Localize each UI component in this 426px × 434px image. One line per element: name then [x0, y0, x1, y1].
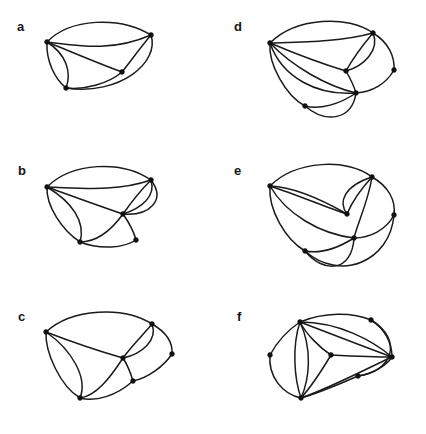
vertex-v1 — [298, 320, 303, 325]
vertex-v4 — [170, 352, 175, 357]
edge-v2-v7 — [358, 320, 390, 376]
panel-e-vertices — [268, 175, 397, 254]
panel-e — [213, 145, 426, 290]
edge-v3-v5 — [346, 71, 356, 93]
edge-v3-v4 — [80, 214, 123, 242]
vertex-v4 — [78, 240, 83, 245]
vertex-v4 — [64, 86, 69, 91]
graph-figure: a b c d e f — [0, 0, 426, 434]
vertex-v2 — [370, 175, 375, 180]
edge-v1-v3 — [270, 43, 346, 71]
edge-v1-v3 — [47, 187, 123, 214]
panel-b-graph — [0, 145, 213, 290]
panel-c-graph — [0, 290, 213, 434]
panel-label-f: f — [237, 310, 241, 323]
vertex-v5 — [131, 379, 136, 384]
vertex-v3 — [120, 70, 125, 75]
edge-v2-v3 — [346, 33, 375, 71]
edge-v2-v4 — [373, 33, 394, 70]
panel-c-vertices — [44, 322, 175, 401]
panel-b — [0, 145, 213, 290]
edge-v4-v5 — [331, 355, 392, 357]
vertex-v7 — [356, 374, 361, 379]
edge-v3-v5 — [123, 358, 133, 381]
panel-c — [0, 290, 213, 434]
vertex-v5 — [134, 238, 139, 243]
edge-v1-v2 — [270, 33, 373, 43]
panel-d — [213, 0, 426, 145]
vertex-v2 — [149, 178, 154, 183]
vertex-v2 — [150, 322, 155, 327]
panel-d-edges — [270, 21, 394, 117]
edge-v1-v4 — [47, 187, 81, 242]
edge-v1-v3 — [270, 186, 347, 214]
vertex-v4 — [392, 68, 397, 73]
vertex-v6 — [303, 104, 308, 109]
edge-v1-v6 — [270, 186, 305, 251]
vertex-v5 — [352, 236, 357, 241]
vertex-v6 — [299, 396, 304, 401]
vertex-v5 — [390, 355, 395, 360]
edge-v1-v6 — [46, 332, 82, 398]
panel-e-graph — [213, 145, 426, 290]
panel-label-d: d — [234, 20, 242, 33]
panel-label-b: b — [18, 164, 26, 177]
edge-v1-v2 — [47, 22, 151, 42]
vertex-v2 — [149, 33, 154, 38]
edge-v1-v4 — [47, 187, 80, 242]
edge-v1-v2 — [47, 35, 151, 46]
vertex-v3 — [121, 212, 126, 217]
vertex-v1 — [45, 40, 50, 45]
panel-a — [0, 0, 213, 145]
edge-v1-v2 — [47, 180, 151, 188]
panel-b-edges — [47, 166, 157, 247]
vertex-v1 — [268, 184, 273, 189]
edge-v1-v2 — [270, 21, 373, 43]
vertex-v3 — [121, 356, 126, 361]
edge-v1-v6 — [295, 322, 301, 398]
panel-f-graph — [213, 290, 426, 434]
edge-v2-v4 — [372, 177, 394, 215]
edge-v4-v5 — [133, 354, 172, 381]
panel-label-a: a — [17, 20, 24, 33]
edge-v4-v5 — [356, 70, 394, 93]
vertex-v2 — [371, 31, 376, 36]
edge-v1-v2 — [300, 314, 371, 322]
panel-a-vertices — [45, 33, 154, 91]
edge-v3-v5 — [123, 214, 136, 240]
vertex-v6 — [303, 249, 308, 254]
edge-v5-v6 — [305, 93, 356, 107]
edge-v2-v4 — [152, 324, 172, 354]
edge-v5-v6 — [301, 357, 392, 398]
panel-label-e: e — [234, 164, 241, 177]
vertex-v6 — [78, 396, 83, 401]
edge-v1-v2 — [270, 164, 372, 186]
vertex-v1 — [268, 41, 273, 46]
vertex-v3 — [344, 69, 349, 74]
edge-v3-v4 — [66, 72, 122, 88]
edge-v1-v5 — [270, 43, 356, 93]
edge-v5-v6 — [305, 238, 354, 252]
panel-label-c: c — [18, 310, 25, 323]
vertex-v3 — [345, 212, 350, 217]
vertex-v4 — [329, 353, 334, 358]
edge-v1-v4 — [300, 322, 331, 355]
vertex-v3 — [268, 353, 273, 358]
edge-v1-v6 — [270, 43, 305, 106]
panel-a-edges — [47, 22, 152, 89]
vertex-v2 — [369, 318, 374, 323]
panel-d-graph — [213, 0, 426, 145]
panel-e-edges — [270, 164, 394, 266]
vertex-v1 — [44, 330, 49, 335]
edge-v1-v3 — [46, 332, 123, 358]
edge-v2-v3 — [123, 180, 151, 214]
vertex-v5 — [354, 91, 359, 96]
panel-f — [213, 290, 426, 434]
edge-v1-v2 — [46, 312, 152, 332]
edge-v2-v5 — [354, 177, 372, 238]
panel-a-graph — [0, 0, 213, 145]
vertex-v1 — [45, 185, 50, 190]
edge-v1-v5 — [270, 43, 356, 93]
vertex-v4 — [392, 213, 397, 218]
